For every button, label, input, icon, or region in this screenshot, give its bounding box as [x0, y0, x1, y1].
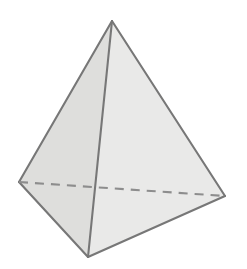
pyramid-svg: Square pyramid (tetrahedron-style line d…	[0, 0, 247, 269]
pyramid-figure: Square pyramid (tetrahedron-style line d…	[0, 0, 247, 269]
